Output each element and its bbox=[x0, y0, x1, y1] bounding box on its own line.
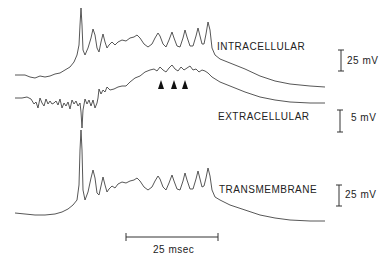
arrowhead-icon bbox=[182, 80, 188, 89]
arrowhead-icon bbox=[171, 80, 177, 89]
extracellular-label: EXTRACELLULAR bbox=[218, 111, 310, 122]
time-scale-bar bbox=[126, 233, 218, 241]
electrophysiology-figure: INTRACELLULAR 25 mV EXTRACELLULAR 5 mV T… bbox=[0, 0, 390, 262]
traces-canvas bbox=[0, 0, 390, 262]
transmembrane-label: TRANSMEMBRANE bbox=[219, 184, 317, 195]
transmembrane-scale-label: 25 mV bbox=[345, 189, 376, 200]
intracellular-label: INTRACELLULAR bbox=[217, 41, 305, 52]
time-scale-label: 25 msec bbox=[153, 244, 194, 255]
scale-bar-intracellular bbox=[338, 50, 344, 71]
intracellular-scale-label: 25 mV bbox=[347, 55, 378, 66]
scale-bar-extracellular bbox=[337, 110, 343, 132]
transmembrane-trace bbox=[15, 130, 325, 221]
arrowhead-markers bbox=[158, 80, 188, 89]
extracellular-scale-label: 5 mV bbox=[351, 112, 376, 123]
scale-bar-transmembrane bbox=[336, 185, 342, 206]
arrowhead-icon bbox=[158, 80, 164, 89]
